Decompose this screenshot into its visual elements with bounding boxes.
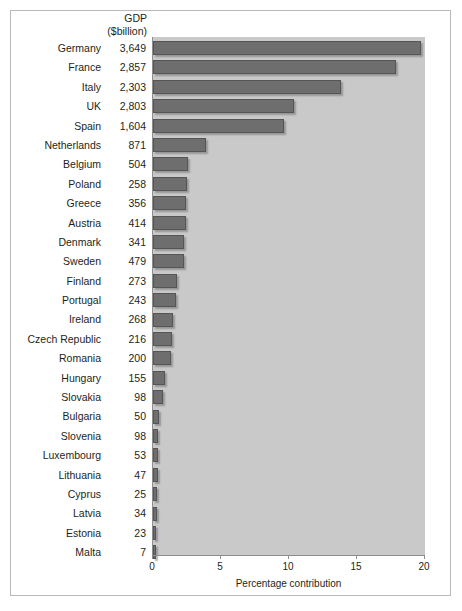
- gdp-value: 7: [108, 543, 151, 562]
- category-row: Cyprus25: [0, 485, 151, 504]
- bar: [153, 507, 157, 521]
- country-label: Romania: [59, 349, 101, 368]
- country-label: Hungary: [61, 369, 101, 388]
- country-label: Belgium: [63, 155, 101, 174]
- category-row: Austria414: [0, 214, 151, 233]
- country-label: Finland: [67, 272, 101, 291]
- bar: [153, 390, 163, 404]
- country-label: Spain: [74, 117, 101, 136]
- x-axis-tick-label: 20: [418, 561, 429, 572]
- gdp-header-line1: GDP: [0, 12, 151, 25]
- category-row: Sweden479: [0, 252, 151, 271]
- category-row: Denmark341: [0, 233, 151, 252]
- bar: [153, 235, 184, 249]
- category-row: Poland258: [0, 175, 151, 194]
- gdp-value: 414: [108, 214, 151, 233]
- country-label: Latvia: [73, 504, 101, 523]
- country-label: Greece: [67, 194, 101, 213]
- gdp-value: 2,303: [108, 78, 151, 97]
- bar: [153, 351, 171, 365]
- bar: [153, 80, 341, 94]
- gdp-value: 47: [108, 466, 151, 485]
- bar: [153, 313, 173, 327]
- country-label: Bulgaria: [62, 407, 101, 426]
- country-label: Cyprus: [68, 485, 101, 504]
- category-label-column: Germany3,649France2,857Italy2,303UK2,803…: [0, 39, 151, 563]
- country-label: Luxembourg: [43, 446, 101, 465]
- bar: [153, 138, 206, 152]
- gdp-value: 98: [108, 427, 151, 446]
- gdp-column-header: GDP ($billion): [0, 12, 151, 38]
- bar: [153, 216, 186, 230]
- plot-area: [152, 37, 425, 555]
- bar: [153, 177, 187, 191]
- bar: [153, 332, 172, 346]
- category-row: Hungary155: [0, 369, 151, 388]
- bar: [153, 410, 159, 424]
- gdp-value: 479: [108, 252, 151, 271]
- category-row: Bulgaria50: [0, 407, 151, 426]
- country-label: Ireland: [69, 310, 101, 329]
- bar: [153, 41, 421, 55]
- country-label: Netherlands: [44, 136, 101, 155]
- gdp-header-line2: ($billion): [0, 25, 151, 38]
- country-label: France: [68, 58, 101, 77]
- bar: [153, 274, 177, 288]
- bar: [153, 487, 157, 501]
- country-label: Slovakia: [61, 388, 101, 407]
- gdp-value: 155: [108, 369, 151, 388]
- bar: [153, 545, 156, 559]
- x-axis-tick: [152, 555, 153, 559]
- country-label: UK: [86, 97, 101, 116]
- country-label: Italy: [82, 78, 101, 97]
- x-axis-tick: [220, 555, 221, 559]
- x-axis-tick-label: 15: [350, 561, 361, 572]
- category-row: Spain1,604: [0, 117, 151, 136]
- country-label: Lithuania: [58, 466, 101, 485]
- gdp-value: 200: [108, 349, 151, 368]
- category-row: Ireland268: [0, 310, 151, 329]
- country-label: Austria: [68, 214, 101, 233]
- gdp-value: 2,803: [108, 97, 151, 116]
- x-axis-tick: [288, 555, 289, 559]
- category-row: Finland273: [0, 272, 151, 291]
- bar: [153, 526, 156, 540]
- bar: [153, 429, 158, 443]
- country-label: Denmark: [58, 233, 101, 252]
- bar: [153, 293, 176, 307]
- x-axis-tick-label: 0: [149, 561, 155, 572]
- bar: [153, 196, 186, 210]
- gdp-value: 98: [108, 388, 151, 407]
- category-row: Malta7: [0, 543, 151, 562]
- gdp-value: 53: [108, 446, 151, 465]
- gdp-value: 1,604: [108, 117, 151, 136]
- category-row: Lithuania47: [0, 466, 151, 485]
- x-axis-title: Percentage contribution: [152, 578, 425, 589]
- gdp-value: 216: [108, 330, 151, 349]
- gdp-value: 356: [108, 194, 151, 213]
- category-row: Estonia23: [0, 524, 151, 543]
- x-axis-tick-label: 10: [282, 561, 293, 572]
- gdp-value: 341: [108, 233, 151, 252]
- bar: [153, 468, 158, 482]
- country-label: Sweden: [63, 252, 101, 271]
- category-row: Slovakia98: [0, 388, 151, 407]
- category-row: Czech Republic216: [0, 330, 151, 349]
- chart-figure: GDP ($billion) Germany3,649France2,857It…: [0, 0, 462, 611]
- gdp-value: 23: [108, 524, 151, 543]
- bar: [153, 157, 188, 171]
- gdp-value: 504: [108, 155, 151, 174]
- gdp-value: 3,649: [108, 39, 151, 58]
- x-axis-tick: [356, 555, 357, 559]
- gdp-value: 871: [108, 136, 151, 155]
- category-row: Luxembourg53: [0, 446, 151, 465]
- gdp-value: 2,857: [108, 58, 151, 77]
- category-row: Italy2,303: [0, 78, 151, 97]
- country-label: Portugal: [62, 291, 101, 310]
- gdp-value: 268: [108, 310, 151, 329]
- category-row: Portugal243: [0, 291, 151, 310]
- x-axis-tick-label: 5: [217, 561, 223, 572]
- bar: [153, 371, 165, 385]
- country-label: Czech Republic: [27, 330, 101, 349]
- gdp-value: 243: [108, 291, 151, 310]
